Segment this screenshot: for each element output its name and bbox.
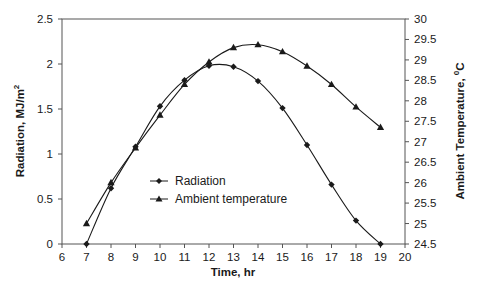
x-tick-label: 19 [374, 251, 387, 263]
y2-tick-label: 26.5 [414, 156, 436, 168]
y2-tick-label: 28 [414, 95, 427, 107]
y2-tick-label: 26 [414, 177, 427, 189]
legend: Radiation Ambient temperature [150, 174, 287, 206]
y-tick-label: 0.5 [37, 193, 53, 205]
y-axis-left-ticks: 00.511.522.5 [37, 13, 62, 250]
y-axis-left-title: Radiation, MJ/m2 [12, 84, 26, 177]
diamond-marker-icon [328, 181, 334, 187]
y-axis-right-ticks: 24.52525.52626.52727.52828.52929.530 [405, 13, 436, 250]
x-tick-label: 7 [83, 251, 89, 263]
chart: 67891011121314151617181920 00.511.522.5 … [0, 0, 479, 297]
diamond-marker-icon [304, 142, 310, 148]
triangle-marker-icon [303, 62, 310, 68]
y-tick-label: 1.5 [37, 103, 53, 115]
x-tick-label: 12 [203, 251, 216, 263]
y2-tick-label: 27 [414, 136, 427, 148]
y-tick-label: 2.5 [37, 13, 53, 25]
diamond-marker-icon [230, 64, 236, 70]
y-tick-label: 0 [47, 238, 53, 250]
y2-tick-label: 29 [414, 54, 427, 66]
y-tick-label: 1 [47, 148, 53, 160]
y2-tick-label: 29.5 [414, 33, 436, 45]
x-tick-label: 9 [132, 251, 138, 263]
plot-frame [62, 19, 405, 244]
legend-radiation: Radiation [175, 174, 226, 188]
y2-tick-label: 24.5 [414, 238, 436, 250]
y2-tick-label: 30 [414, 13, 427, 25]
legend-ambient-temperature: Ambient temperature [175, 192, 287, 206]
series-group [83, 41, 384, 247]
x-axis-title: Time, hr [211, 266, 256, 278]
x-tick-label: 11 [179, 251, 191, 263]
diamond-marker-icon [83, 241, 89, 247]
x-tick-label: 20 [399, 251, 412, 263]
y2-tick-label: 28.5 [414, 74, 436, 86]
x-tick-label: 15 [276, 251, 289, 263]
y2-tick-label: 27.5 [414, 115, 436, 127]
y2-tick-label: 25.5 [414, 197, 436, 209]
y-tick-label: 2 [47, 58, 53, 70]
triangle-marker-icon [205, 58, 212, 64]
y2-tick-label: 25 [414, 218, 427, 230]
x-tick-label: 10 [154, 251, 167, 263]
triangle-marker-icon [377, 124, 384, 130]
x-tick-label: 6 [59, 251, 65, 263]
x-axis-ticks: 67891011121314151617181920 [59, 244, 412, 263]
y-axis-right-title: Ambient Temperature, 0C [452, 62, 466, 199]
x-tick-label: 16 [301, 251, 314, 263]
x-tick-label: 8 [108, 251, 114, 263]
diamond-marker-icon [156, 178, 162, 184]
x-tick-label: 17 [325, 251, 338, 263]
triangle-marker-icon [83, 220, 90, 226]
x-tick-label: 18 [350, 251, 363, 263]
x-tick-label: 14 [252, 251, 265, 263]
triangle-marker-icon [328, 81, 335, 87]
x-tick-label: 13 [227, 251, 240, 263]
